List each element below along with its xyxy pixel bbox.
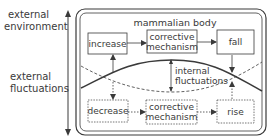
label-external-fluctuations: external fluctuations bbox=[10, 71, 69, 94]
label-external-environment: external environment bbox=[4, 9, 68, 32]
box-fall: fall bbox=[217, 30, 254, 54]
box-increase: increase bbox=[88, 33, 127, 54]
box-rise: rise bbox=[217, 100, 254, 123]
svg-text:internal: internal bbox=[175, 66, 210, 76]
svg-text:corrective: corrective bbox=[149, 102, 194, 112]
svg-text:rise: rise bbox=[227, 107, 244, 117]
svg-text:fluctuations: fluctuations bbox=[10, 83, 69, 94]
svg-text:mechanism: mechanism bbox=[146, 42, 198, 52]
arrow-down-icon bbox=[65, 129, 71, 136]
svg-text:increase: increase bbox=[89, 39, 127, 49]
svg-text:decrease: decrease bbox=[88, 106, 129, 116]
homeostasis-diagram: external environment external fluctuatio… bbox=[0, 0, 270, 139]
box-corrective-mechanism-bottom: corrective mechanism bbox=[145, 100, 197, 124]
svg-text:mechanism: mechanism bbox=[145, 112, 197, 122]
container-title: mammalian body bbox=[133, 17, 216, 28]
svg-text:external: external bbox=[8, 9, 49, 20]
solid-curve bbox=[81, 60, 262, 91]
svg-text:environment: environment bbox=[4, 21, 68, 32]
box-decrease: decrease bbox=[88, 100, 129, 122]
svg-text:fall: fall bbox=[229, 37, 243, 47]
range-down-arrow-icon bbox=[169, 87, 173, 92]
arrow-up-icon bbox=[65, 10, 71, 17]
box-corrective-mechanism-top: corrective mechanism bbox=[146, 30, 198, 53]
svg-text:external: external bbox=[10, 71, 51, 82]
svg-text:corrective: corrective bbox=[150, 32, 195, 42]
svg-text:fluctuations: fluctuations bbox=[175, 76, 228, 86]
